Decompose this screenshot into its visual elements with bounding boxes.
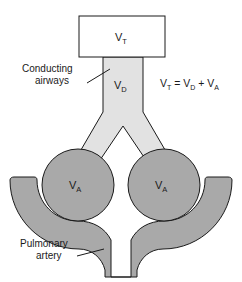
conducting-airways-label-line1: Conducting <box>22 63 73 74</box>
conducting-airway-shape <box>78 57 168 166</box>
conducting-airways-label-line2: airways <box>35 75 69 86</box>
volume-equation: VT = VD + VA <box>160 77 219 91</box>
respiratory-volume-diagram: VT VD VA VA VT = VD + VA Conducting airw… <box>0 0 242 282</box>
pulmonary-artery-label-line2: artery <box>36 250 62 261</box>
pulmonary-artery-label-line1: Pulmonary <box>20 238 68 249</box>
